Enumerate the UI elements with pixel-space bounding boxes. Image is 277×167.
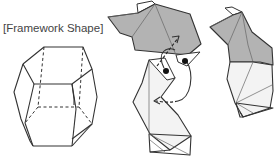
diagram-canvas <box>0 0 277 167</box>
folding-step-figure <box>108 1 201 155</box>
marker-dot-right <box>182 58 188 64</box>
framework-polyhedron <box>14 47 97 146</box>
folded-result-figure <box>210 7 273 117</box>
marker-dot-left <box>163 68 169 74</box>
